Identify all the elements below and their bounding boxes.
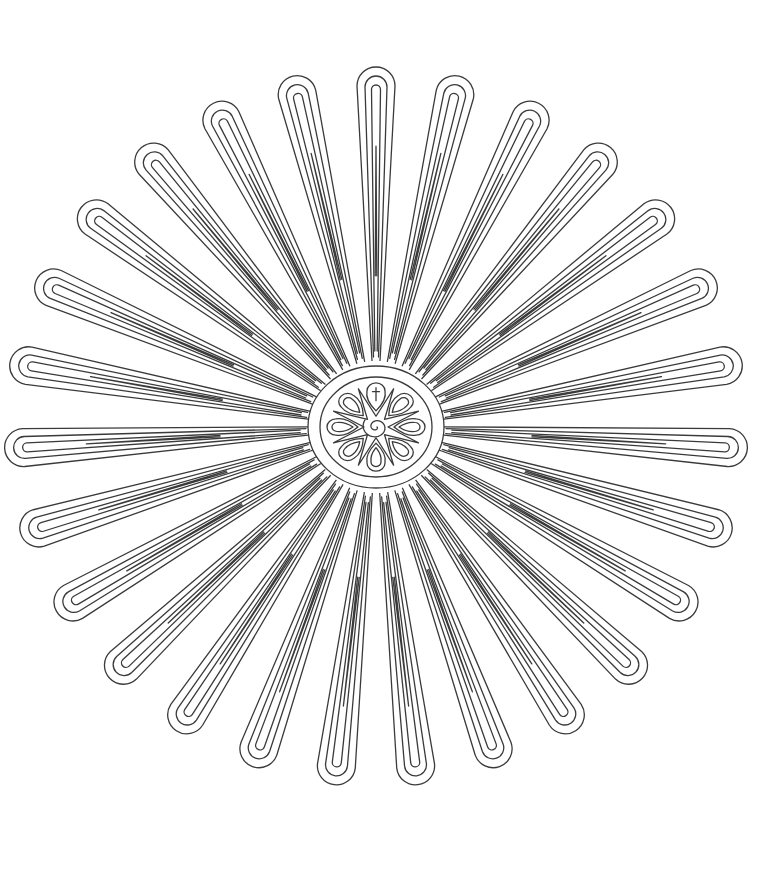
petal — [357, 67, 395, 361]
petal — [7, 344, 315, 434]
mandala-canvas — [0, 0, 781, 869]
petal — [365, 490, 437, 787]
medallion-outer-ring — [308, 366, 444, 488]
petal — [315, 490, 387, 787]
center-medallion — [308, 366, 444, 488]
petal — [438, 344, 746, 434]
